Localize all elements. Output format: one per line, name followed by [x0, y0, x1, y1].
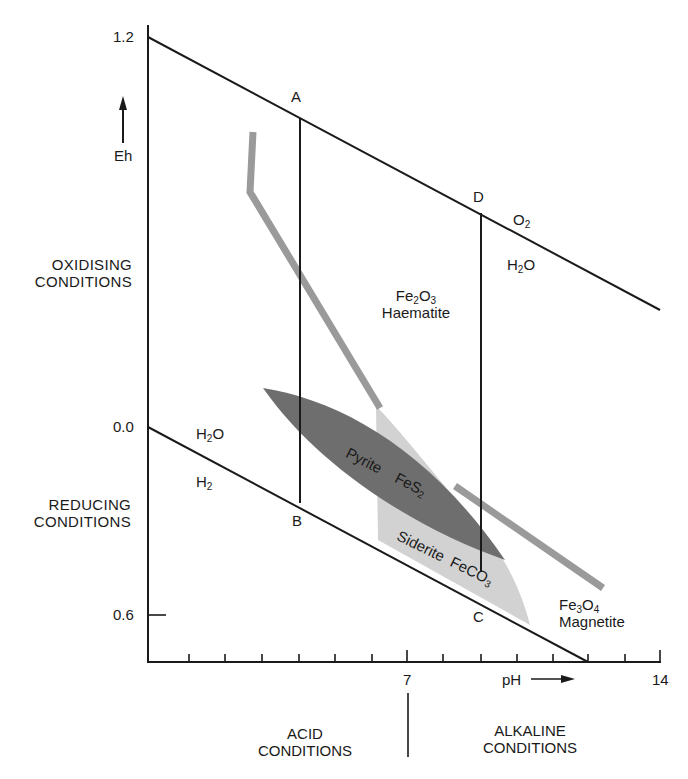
- point-c-label: C: [473, 608, 484, 625]
- haematite-boundary-band: [250, 132, 380, 408]
- o2-h2o-boundary: [148, 37, 660, 310]
- point-b-label: B: [292, 512, 302, 529]
- acid-conditions-label: ACID CONDITIONS: [255, 725, 355, 759]
- h2-label: H2: [196, 473, 212, 490]
- y-axis-label: Eh: [114, 147, 132, 164]
- x-ticks: [189, 650, 660, 662]
- h2o-lower-label: H2O: [196, 425, 224, 442]
- point-a-label: A: [291, 88, 301, 105]
- h2o-upper-label: H2O: [507, 256, 535, 273]
- y-tick-label-0.0: 0.0: [113, 418, 134, 435]
- right-arrow-icon: [531, 675, 575, 683]
- oxidising-conditions-label: OXIDISING CONDITIONS: [35, 256, 132, 290]
- magnetite-label: Fe3O4 Magnetite: [559, 596, 625, 630]
- x-tick-label-7: 7: [403, 671, 411, 688]
- haematite-label: Fe2O3 Haematite: [371, 287, 461, 321]
- eh-ph-diagram: [0, 0, 688, 779]
- x-axis-label: pH: [502, 671, 521, 688]
- y-tick-label-0.6: 0.6: [113, 606, 134, 623]
- alkaline-conditions-label: ALKALINE CONDITIONS: [470, 722, 590, 756]
- o2-label: O2: [513, 211, 530, 228]
- y-tick-label-1.2: 1.2: [113, 28, 134, 45]
- up-arrow-icon: [119, 96, 127, 143]
- reducing-conditions-label: REDUCING CONDITIONS: [34, 496, 131, 530]
- x-tick-label-14: 14: [652, 671, 669, 688]
- point-d-label: D: [473, 188, 484, 205]
